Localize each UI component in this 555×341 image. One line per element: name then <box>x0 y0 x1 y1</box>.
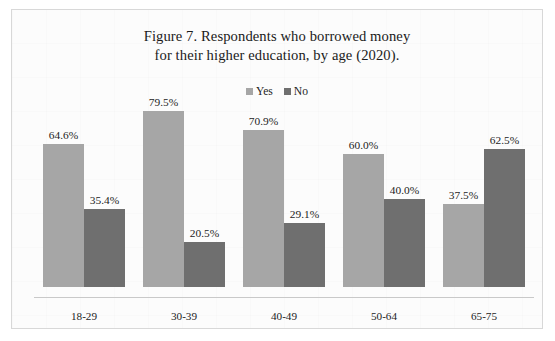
bar-yes-30-39[interactable]: 79.5% <box>143 99 184 287</box>
bar-rect <box>84 209 125 287</box>
bar-no-30-39[interactable]: 20.5% <box>184 99 225 287</box>
bar-rect <box>484 149 525 287</box>
figure-frame: Figure 7. Respondents who borrowed money… <box>11 9 543 329</box>
bar-no-65-75[interactable]: 62.5% <box>484 99 525 287</box>
bar-rect <box>284 223 325 287</box>
bar-no-18-29[interactable]: 35.4% <box>84 99 125 287</box>
bar-rect <box>343 154 384 287</box>
category-label-40-49: 40-49 <box>234 310 334 322</box>
bar-rect <box>443 204 484 287</box>
bar-rect <box>184 242 225 287</box>
bar-value-label: 35.4% <box>74 194 136 206</box>
category-label-30-39: 30-39 <box>134 310 234 322</box>
bar-yes-40-49[interactable]: 70.9% <box>243 99 284 287</box>
bar-value-label: 62.5% <box>474 134 536 146</box>
bar-group: 70.9%29.1% <box>243 99 325 287</box>
legend-square-icon <box>284 88 291 95</box>
bar-rect <box>43 144 84 287</box>
legend-item-no[interactable]: No <box>284 85 308 98</box>
bar-value-label: 40.0% <box>374 184 436 196</box>
legend-item-yes[interactable]: Yes <box>246 85 273 98</box>
bar-rect <box>143 111 184 287</box>
bar-group: 60.0%40.0% <box>343 99 425 287</box>
legend-label-no: No <box>294 85 308 98</box>
category-labels: 18-2930-3940-4950-6465-75 <box>34 310 534 330</box>
bar-no-40-49[interactable]: 29.1% <box>284 99 325 287</box>
legend-label-yes: Yes <box>256 85 273 98</box>
figure-title-line-2: for their higher education, by age (2020… <box>12 46 542 65</box>
bar-group: 79.5%20.5% <box>143 99 225 287</box>
bar-value-label: 20.5% <box>174 227 236 239</box>
bar-group: 37.5%62.5% <box>443 99 525 287</box>
category-label-65-75: 65-75 <box>434 310 534 322</box>
bars-container: 64.6%35.4%79.5%20.5%70.9%29.1%60.0%40.0%… <box>34 110 534 298</box>
bar-rect <box>384 199 425 287</box>
figure-title: Figure 7. Respondents who borrowed money… <box>12 27 542 65</box>
plot-area: 64.6%35.4%79.5%20.5%70.9%29.1%60.0%40.0%… <box>34 110 534 308</box>
chart-legend: Yes No <box>12 85 542 98</box>
bar-yes-65-75[interactable]: 37.5% <box>443 99 484 287</box>
category-label-18-29: 18-29 <box>34 310 134 322</box>
bar-value-label: 29.1% <box>274 208 336 220</box>
figure-title-line-1: Figure 7. Respondents who borrowed money <box>12 27 542 46</box>
category-label-50-64: 50-64 <box>334 310 434 322</box>
bar-group: 64.6%35.4% <box>43 99 125 287</box>
legend-square-icon <box>246 88 253 95</box>
bar-no-50-64[interactable]: 40.0% <box>384 99 425 287</box>
